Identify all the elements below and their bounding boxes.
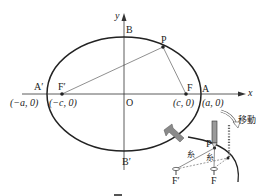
y-axis-label: y [115, 11, 119, 21]
coord-A-prime: (−a, 0) [10, 98, 38, 108]
pencil-icon [212, 121, 217, 148]
label-F: F [187, 83, 193, 93]
label-F-prime: F′ [58, 82, 66, 92]
inset-label-F: F [211, 176, 217, 186]
inset-label-F-prime: F′ [172, 176, 180, 186]
string-label-2: 糸 [206, 153, 214, 163]
x-axis [22, 92, 246, 97]
string-label-1: 糸 [187, 150, 195, 160]
pin-F-prime-icon [173, 167, 180, 175]
origin-label: O [126, 98, 133, 108]
x-axis-label: x [248, 88, 252, 98]
caption-partial [114, 194, 122, 196]
label-B-prime: B′ [122, 157, 131, 167]
label-A: A [202, 84, 209, 94]
coord-F: (c, 0) [173, 98, 194, 108]
label-B: B [126, 25, 133, 35]
label-P: P [161, 35, 167, 45]
coord-A: (a, 0) [202, 98, 224, 108]
inset-label-P: P [206, 139, 212, 149]
coord-F-prime: (−c, 0) [49, 98, 77, 108]
point-F-prime [60, 92, 64, 96]
move-label: 移動 [238, 115, 256, 125]
point-P [161, 45, 165, 49]
label-A-prime: A′ [34, 82, 43, 92]
strings [176, 148, 230, 169]
pin-F-icon [211, 167, 218, 175]
